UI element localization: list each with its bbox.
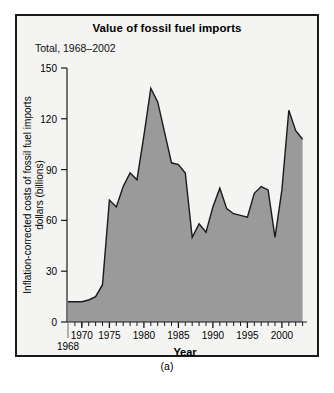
x-tick-label-1970: 1970 xyxy=(71,330,94,341)
chart-plot-area: 150 120 90 60 30 0 Inflation-corrected c… xyxy=(17,16,321,359)
area-series-fossil-fuel-imports xyxy=(68,88,303,322)
y-tick-label-120: 120 xyxy=(40,114,57,125)
x-axis-major-ticks xyxy=(82,322,282,328)
x-tick-label-1985: 1985 xyxy=(167,330,190,341)
y-axis-title-line1: Inflation-corrected costs of fossil fuel… xyxy=(22,96,33,293)
x-axis-title: Year xyxy=(173,346,197,358)
x-tick-label-1980: 1980 xyxy=(133,330,156,341)
y-tick-label-0: 0 xyxy=(51,317,57,328)
y-axis-title-line2: dollars (billions) xyxy=(34,160,45,229)
y-axis-ticks xyxy=(61,68,67,322)
y-axis-title: Inflation-corrected costs of fossil fuel… xyxy=(22,96,45,293)
chart-frame: Value of fossil fuel imports Total, 1968… xyxy=(15,14,319,357)
y-tick-label-60: 60 xyxy=(46,215,58,226)
x-tick-label-1990: 1990 xyxy=(202,330,225,341)
x-tick-label-2000: 2000 xyxy=(271,330,294,341)
x-origin-label-1968: 1968 xyxy=(57,341,80,352)
x-tick-label-1975: 1975 xyxy=(98,330,121,341)
y-tick-label-30: 30 xyxy=(46,266,58,277)
y-tick-label-150: 150 xyxy=(40,63,57,74)
figure: Value of fossil fuel imports Total, 1968… xyxy=(0,0,334,393)
x-tick-label-1995: 1995 xyxy=(236,330,259,341)
figure-caption: (a) xyxy=(0,360,334,372)
y-tick-label-90: 90 xyxy=(46,165,58,176)
